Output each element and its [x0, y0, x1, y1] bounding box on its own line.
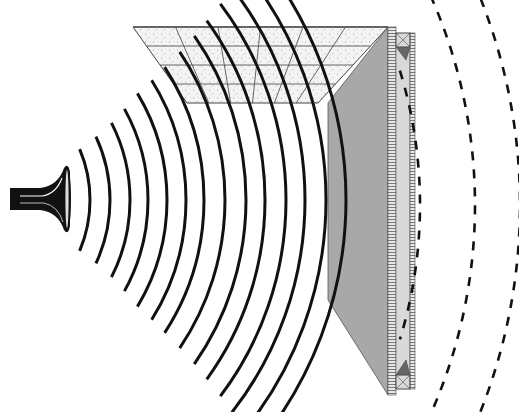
incident-wave-arc — [124, 109, 148, 291]
incident-wave-arc — [152, 80, 186, 320]
transmitted-wave-arc — [415, 0, 475, 412]
incident-wave-arc — [111, 123, 130, 277]
diagram-canvas: Sound transmission through a wall with s… — [0, 0, 519, 412]
transmitted-sound-waves — [400, 0, 519, 412]
gypsum-board-right — [410, 33, 415, 389]
gypsum-board-left — [388, 27, 396, 395]
incident-wave-arc — [96, 137, 110, 264]
horn-speaker-icon — [10, 166, 71, 233]
incident-wave-arc — [80, 149, 90, 251]
sound-transmission-illustration — [0, 0, 519, 412]
wall — [328, 27, 415, 395]
incident-wave-arc — [165, 67, 204, 333]
stud-cavity — [396, 33, 410, 389]
transmitted-wave-arc — [450, 0, 519, 412]
incident-wave-arc — [137, 93, 167, 306]
